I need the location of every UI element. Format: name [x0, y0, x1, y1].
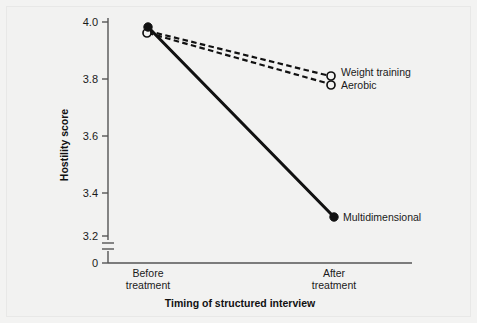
- x-category-before-line2: treatment: [126, 279, 170, 291]
- x-category-after-line1: After: [323, 267, 346, 279]
- series-label-aerobic: Aerobic: [341, 79, 377, 91]
- y-tick-label-3-4: 3.4: [83, 187, 98, 199]
- line-chart: 4.0 3.8 3.6 3.4 3.2 0 Hostility score We…: [0, 0, 477, 323]
- y-tick-label-3-2: 3.2: [83, 230, 98, 242]
- x-category-after-line2: treatment: [312, 279, 356, 291]
- series-label-weight-training: Weight training: [341, 66, 411, 78]
- y-tick-label-3-6: 3.6: [83, 130, 98, 142]
- marker-filled-before: [144, 23, 152, 31]
- y-tick-label-3-8: 3.8: [83, 73, 98, 85]
- series-label-multidimensional: Multidimensional: [343, 211, 421, 223]
- y-tick-label-4-0: 4.0: [83, 16, 98, 28]
- series-line-aerobic: [148, 33, 330, 84]
- marker-open-after-weight-training: [327, 72, 335, 80]
- marker-filled-after-multidimensional: [330, 213, 338, 221]
- marker-open-after-aerobic: [327, 81, 335, 89]
- x-category-before-line1: Before: [133, 267, 164, 279]
- x-axis-title: Timing of structured interview: [165, 297, 316, 309]
- figure-container: 4.0 3.8 3.6 3.4 3.2 0 Hostility score We…: [0, 0, 477, 323]
- series-line-multidimensional: [148, 27, 334, 217]
- y-axis-title: Hostility score: [58, 109, 70, 182]
- y-tick-label-0: 0: [92, 257, 98, 269]
